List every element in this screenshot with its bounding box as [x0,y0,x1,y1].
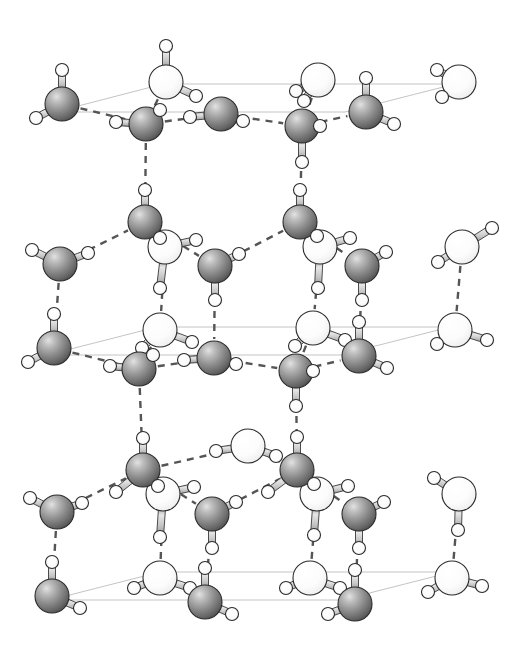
oxygen-atom-dark [349,95,383,129]
water-molecule-o-b3 [195,496,243,555]
oxygen-atom-light [293,561,327,595]
hydrogen-atom [147,349,160,362]
oxygen-atom-light [435,561,469,595]
hydrogen-atom [381,362,394,375]
unit-cell-bottom-cell [50,572,452,600]
water-molecule-o-z1 [35,556,87,615]
unit-cell-top-cell [55,84,455,112]
hydrogen-atom [154,531,167,544]
water-molecule-o-b1 [24,492,89,530]
hydrogen-bond-network [53,98,460,585]
hydrogen-atom [30,112,43,125]
water-molecule-o-z2 [188,562,239,621]
water-molecule-o-n6 [136,313,199,355]
water-molecule-o-z5 [280,561,347,595]
unit-cell-middle-cell [47,327,450,355]
hydrogen-atom [314,120,327,133]
hydrogen-atom [380,246,393,259]
hydrogen-atom [226,608,239,621]
hydrogen-atom [230,496,243,509]
hydrogen-atom [137,432,150,445]
hydrogen-atom [262,486,275,499]
hydrogen-atom [486,222,499,235]
atom-and-bond-layer [22,40,499,622]
hydrogen-atom [154,232,167,245]
water-molecule-o-m4 [283,184,324,243]
hydrogen-bond [314,360,340,366]
water-molecule-o-t5 [349,72,401,131]
water-molecule-o-m3 [198,248,246,307]
water-molecule-o-n2 [104,349,160,387]
water-molecule-o-m2 [128,184,167,245]
hydrogen-atom [128,582,141,595]
hydrogen-bond [303,346,306,354]
hydrogen-atom [199,562,212,575]
oxygen-atom-dark [204,97,238,131]
hydrogen-atom [436,91,449,104]
hydrogen-atom [178,354,191,367]
oxygen-atom-dark [345,249,379,283]
hydrogen-atom [308,478,321,491]
water-molecule-o-t4 [285,109,327,169]
oxygen-atom-light [143,313,177,347]
hydrogen-bond [457,266,461,311]
hydrogen-atom [110,116,123,129]
water-molecule-o-n7 [289,311,352,353]
water-molecule-o-n8 [431,313,494,351]
hydrogen-atom [154,104,167,117]
hydrogen-atom [452,524,465,537]
oxygen-atom-light [301,63,335,97]
hydrogen-atom [22,356,35,369]
hydrogen-atom [74,602,87,615]
hydrogen-atom [184,111,197,124]
hydrogen-atom [210,445,223,458]
water-molecule-o-n5 [342,316,394,375]
water-molecule-o-b8 [428,472,477,537]
hydrogen-atom [342,480,355,493]
hydrogen-atom [160,40,173,53]
hydrogen-atom [476,580,489,593]
water-molecule-o-b2 [110,432,165,499]
hydrogen-atom [431,338,444,351]
hydrogen-atom [431,64,444,77]
oxygen-atom-dark [40,495,74,529]
hydrogen-atom [312,282,325,295]
water-molecule-o-b5 [342,496,391,555]
hydrogen-atom [82,247,95,260]
hydrogen-atom [291,431,304,444]
hydrogen-atom [296,156,309,169]
water-molecule-o-b4 [262,431,321,499]
hydrogen-atom [290,400,303,413]
oxygen-atom-dark [195,497,229,531]
hydrogen-atom [298,95,311,108]
oxygen-atom-light [296,311,330,345]
unit-cell-outlines [47,84,455,600]
oxygen-atom-dark [43,247,77,281]
hydrogen-atom [356,294,369,307]
hydrogen-atom [26,244,39,257]
hydrogen-atom [186,336,199,349]
water-molecule-o-t7 [290,63,336,108]
water-molecule-o-z6 [422,561,489,599]
hydrogen-atom [360,72,373,85]
oxygen-atom-dark [37,331,71,365]
hydrogen-atom [48,308,61,321]
hydrogen-atom [46,556,59,569]
figure-canvas [0,0,527,648]
hydrogen-atom [388,118,401,131]
hydrogen-atom [233,248,246,261]
hydrogen-atom [307,365,320,378]
hydrogen-atom [152,480,165,493]
hydrogen-atom [24,492,37,505]
oxygen-atom-dark [197,341,231,375]
hydrogen-atom [190,90,203,103]
water-molecule-o-n4 [279,354,320,413]
water-molecule-o-m5 [345,246,393,307]
water-molecule-o-b9 [210,429,283,463]
hydrogen-atom [104,360,117,373]
oxygen-atom-light [442,477,476,511]
hydrogen-atom [206,542,219,555]
oxygen-atom-dark [338,587,372,621]
water-molecule-o-t6 [149,40,203,103]
water-molecule-o-t1 [30,64,80,125]
